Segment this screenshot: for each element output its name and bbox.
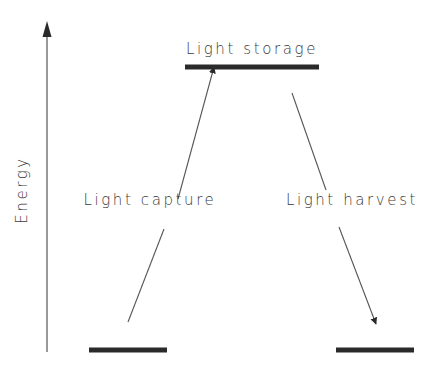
energy-axis-arrowhead-icon [43,21,52,37]
harvest-arrow-upper [292,93,326,190]
harvest-arrow-lower [339,227,376,324]
transition-capture: Light capture [84,67,217,322]
harvest-label: Light harvest [286,191,418,209]
energy-level-diagram: Energy Light storage Light capture Light… [0,0,438,366]
capture-arrow-upper [178,67,214,199]
level-storage-label: Light storage [186,40,318,58]
capture-label: Light capture [84,191,217,209]
energy-axis-label: Energy [13,156,31,224]
capture-arrow-lower [128,229,164,322]
energy-axis: Energy [13,21,52,352]
transition-harvest: Light harvest [286,93,418,324]
